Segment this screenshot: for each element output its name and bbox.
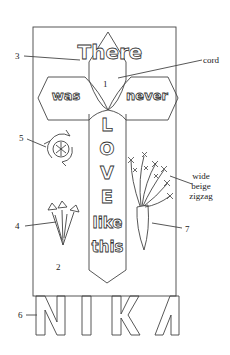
label-7: 7 xyxy=(185,224,190,234)
label-5: 5 xyxy=(19,133,24,143)
text-there: There xyxy=(70,40,150,64)
label-1: 1 xyxy=(103,79,108,89)
label-3: 3 xyxy=(15,51,20,61)
leader-4 xyxy=(25,222,56,226)
text-never: never xyxy=(122,88,172,103)
label-2: 2 xyxy=(56,262,61,272)
text-love-o: O xyxy=(94,138,120,159)
letter-a xyxy=(155,296,179,335)
arrow-fan-motif xyxy=(48,201,79,245)
label-6: 6 xyxy=(18,310,23,320)
text-like: like xyxy=(89,214,126,232)
text-love-v: V xyxy=(94,162,120,183)
label-4: 4 xyxy=(15,221,20,231)
label-wide-beige-zigzag: wide beige zigzag xyxy=(186,171,216,201)
bouquet-motif xyxy=(128,152,173,250)
letter-i xyxy=(82,296,91,335)
label-cord: cord xyxy=(203,55,219,65)
text-was: was xyxy=(44,88,88,103)
text-love-l: L xyxy=(94,114,120,135)
nika-letters xyxy=(36,296,179,335)
text-this: this xyxy=(89,238,126,256)
leader-5 xyxy=(27,139,46,147)
text-love-e: E xyxy=(94,186,120,207)
letter-n xyxy=(36,296,65,335)
swirl-motif xyxy=(44,130,72,166)
banner-diagram: There was never L O V E like this 1 2 3 … xyxy=(0,0,230,355)
letter-k xyxy=(112,296,140,335)
leader-7 xyxy=(152,223,182,228)
